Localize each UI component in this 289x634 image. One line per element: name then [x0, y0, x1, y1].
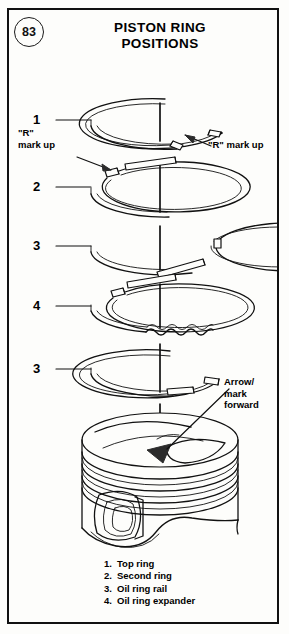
legend-item-4-label: Oil ring expander [117, 595, 195, 606]
ring-oil-rail-upper [91, 223, 279, 278]
label-arrow-mark-forward: Arrow/ mark forward [224, 376, 259, 411]
ring-second [91, 157, 250, 217]
legend-item-1-number: 1. [104, 558, 117, 570]
piston-ring-illustration: .ln { fill:none; stroke:#111; stroke-wid… [7, 8, 279, 624]
legend-item-1: 1.Top ring [104, 558, 195, 570]
label-r-mark-up-left: "R" mark up [18, 127, 55, 150]
label-r-mark-up-right: "R" mark up [208, 139, 263, 151]
legend: 1.Top ring 2.Second ring 3.Oil ring rail… [104, 558, 195, 608]
callout-leader-lines [56, 120, 91, 369]
legend-item-2: 2.Second ring [104, 570, 195, 582]
legend-item-2-number: 2. [104, 570, 117, 582]
diagram-page: 83 PISTON RING POSITIONS .ln { fill:none… [0, 0, 289, 634]
callout-number-4: 4 [33, 298, 40, 313]
legend-item-4-number: 4. [104, 595, 117, 607]
piston [82, 413, 238, 547]
callout-number-2: 2 [33, 179, 40, 194]
r-mark-right-arrowhead [185, 135, 195, 143]
callout-number-1: 1 [33, 112, 40, 127]
legend-item-2-label: Second ring [117, 570, 172, 581]
legend-item-1-label: Top ring [117, 558, 154, 569]
legend-item-3-number: 3. [104, 583, 117, 595]
callout-number-3-lower: 3 [33, 361, 40, 376]
ring-oil-expander [91, 274, 254, 335]
legend-item-3-label: Oil ring rail [117, 583, 167, 594]
ring-oil-rail-lower [73, 350, 219, 398]
callout-number-3-upper: 3 [33, 238, 40, 253]
ring-top [79, 99, 222, 150]
legend-item-3: 3.Oil ring rail [104, 583, 195, 595]
r-mark-left-arrowhead [102, 164, 111, 171]
legend-item-4: 4.Oil ring expander [104, 595, 195, 607]
